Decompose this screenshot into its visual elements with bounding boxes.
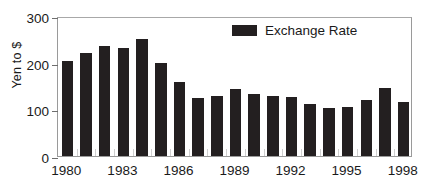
x-axis-tick-label: 1998	[388, 163, 418, 178]
x-axis-minor-tick	[394, 149, 395, 156]
x-axis-tick-label: 1992	[276, 163, 306, 178]
x-axis-minor-tick	[376, 149, 377, 156]
bar-chart: Yen to $ 0100200300 19801983198619891992…	[0, 0, 430, 195]
x-axis-minor-tick	[133, 149, 134, 156]
x-axis-minor-tick	[95, 149, 96, 156]
bar	[342, 107, 353, 156]
x-axis-tick-label: 1986	[163, 163, 193, 178]
bar	[118, 48, 129, 156]
y-axis-tick	[52, 111, 58, 112]
bar	[155, 63, 166, 156]
x-axis-tick-label: 1995	[332, 163, 362, 178]
y-axis-tick	[52, 18, 58, 19]
x-axis-minor-tick	[357, 149, 358, 156]
x-axis-minor-tick	[338, 149, 339, 156]
y-axis-tick	[52, 158, 58, 159]
x-axis-minor-tick	[189, 149, 190, 156]
bar	[286, 97, 297, 156]
bar	[230, 89, 241, 156]
x-axis-minor-tick	[245, 149, 246, 156]
x-axis-tick-label: 1989	[219, 163, 249, 178]
legend: Exchange Rate	[232, 23, 357, 38]
x-axis-minor-tick	[320, 149, 321, 156]
x-axis-minor-tick	[151, 149, 152, 156]
x-axis-minor-tick	[282, 149, 283, 156]
bar	[99, 46, 110, 156]
y-axis-tick-label: 0	[41, 151, 49, 166]
legend-label: Exchange Rate	[265, 23, 357, 38]
x-axis-minor-tick	[170, 149, 171, 156]
y-axis-tick-label: 300	[26, 11, 49, 26]
plot-area: 0100200300	[57, 17, 412, 157]
bar	[323, 108, 334, 156]
bar	[398, 102, 409, 156]
y-axis-tick-label: 100	[26, 104, 49, 119]
x-axis-minor-tick	[301, 149, 302, 156]
x-axis-minor-tick	[264, 149, 265, 156]
x-axis-tick-label: 1980	[51, 163, 81, 178]
bar	[174, 82, 185, 156]
legend-swatch-icon	[232, 25, 257, 36]
y-axis-title: Yen to $	[10, 10, 24, 120]
x-axis-minor-tick	[226, 149, 227, 156]
bar	[267, 96, 278, 156]
bar	[361, 100, 372, 156]
x-axis-tick-label: 1983	[107, 163, 137, 178]
bar	[379, 88, 390, 156]
bar	[80, 53, 91, 156]
bar	[211, 96, 222, 156]
x-axis-minor-tick	[114, 149, 115, 156]
y-axis-tick-label: 200	[26, 57, 49, 72]
bar	[248, 94, 259, 156]
bars-layer	[58, 18, 411, 156]
bar	[62, 61, 73, 156]
x-axis-minor-tick	[207, 149, 208, 156]
x-axis-minor-tick	[77, 149, 78, 156]
bar	[192, 98, 203, 156]
bar	[304, 104, 315, 156]
bar	[136, 39, 147, 156]
y-axis-tick	[52, 65, 58, 66]
plot-inner: 0100200300	[58, 18, 411, 156]
